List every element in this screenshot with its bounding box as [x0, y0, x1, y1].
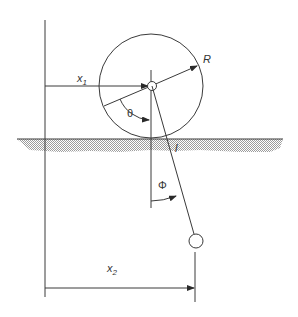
label-x2: x2 — [106, 262, 118, 277]
pendulum-rod — [152, 86, 194, 234]
pendulum-on-wheel-diagram: x1 R θ l Φ x2 — [0, 0, 298, 317]
label-x1: x1 — [76, 72, 87, 87]
ground — [17, 139, 283, 152]
label-R: R — [203, 53, 211, 65]
pendulum-bob — [189, 234, 203, 248]
phi-arc — [151, 196, 176, 201]
theta-arc — [120, 99, 149, 120]
radius-line-lower — [104, 86, 151, 106]
radius-R-arrow — [151, 66, 197, 86]
label-theta: θ — [127, 107, 133, 119]
label-phi: Φ — [158, 179, 167, 191]
